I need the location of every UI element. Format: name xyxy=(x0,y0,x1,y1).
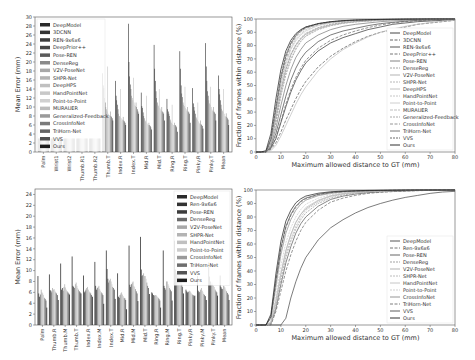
bar xyxy=(160,301,161,325)
legend-label: Ours xyxy=(53,143,65,149)
y-tick-label: 2 xyxy=(29,311,32,317)
bar xyxy=(200,290,201,325)
bar xyxy=(138,112,139,153)
bar xyxy=(73,287,74,325)
bar xyxy=(135,289,136,325)
y-tick-label: 70 xyxy=(247,56,253,62)
bar xyxy=(137,109,138,152)
bar xyxy=(98,287,99,325)
bar xyxy=(103,295,104,325)
bar xyxy=(203,294,204,325)
legend-label: DeepModel xyxy=(190,194,218,201)
bar xyxy=(38,276,39,325)
x-tick-label: Thumb.R xyxy=(51,328,57,352)
bar xyxy=(65,287,66,325)
bar xyxy=(111,116,112,152)
bar xyxy=(52,288,53,325)
x-tick-label: Mid.M xyxy=(130,329,136,344)
y-tick-label: 20 xyxy=(247,122,253,128)
y-tick-label: 40 xyxy=(247,268,253,274)
bar xyxy=(155,81,156,152)
bar xyxy=(207,91,208,152)
y-tick-label: 50 xyxy=(247,82,253,88)
x-tick-label: Ring.T xyxy=(176,328,183,345)
bar xyxy=(96,290,97,325)
bar xyxy=(169,114,170,152)
bar xyxy=(64,284,65,325)
bar xyxy=(143,116,144,152)
y-tick-label: 80 xyxy=(247,214,253,220)
bar xyxy=(45,299,46,325)
bar xyxy=(210,87,211,152)
y-axis-label: Fraction of frames within distance (%) xyxy=(235,196,243,320)
bar xyxy=(206,300,207,325)
y-tick-label: 0 xyxy=(29,149,32,155)
y-tick-label: 6 xyxy=(29,122,32,128)
legend-swatch xyxy=(40,99,50,103)
bar xyxy=(192,88,193,152)
y-tick-label: 20 xyxy=(26,59,32,65)
bar xyxy=(198,291,199,325)
legend-label: Pose-REN xyxy=(190,209,214,215)
x-tick-label: Ring.T xyxy=(182,155,189,172)
bar xyxy=(134,287,135,325)
bar xyxy=(201,125,202,152)
bar xyxy=(91,295,92,325)
y-tick-label: 16 xyxy=(26,235,32,241)
x-tick-label: Ring.R xyxy=(169,155,176,172)
bar xyxy=(229,300,230,325)
bar xyxy=(207,81,208,152)
bar xyxy=(167,109,168,152)
bar xyxy=(117,105,118,152)
y-tick-label: 30 xyxy=(247,281,253,287)
bar xyxy=(221,289,222,325)
bar xyxy=(89,291,90,325)
bar xyxy=(90,293,91,325)
bar xyxy=(215,290,216,325)
bar xyxy=(41,290,42,325)
bar xyxy=(111,117,112,152)
bar xyxy=(191,293,192,325)
bar xyxy=(116,100,117,152)
bar xyxy=(132,283,133,325)
bar xyxy=(120,89,121,152)
bar xyxy=(163,114,164,152)
bar xyxy=(189,112,190,152)
x-tick-label: Index.M xyxy=(96,329,102,349)
bar xyxy=(79,291,80,325)
bar xyxy=(63,291,64,325)
x-tick-label: Ring.R xyxy=(153,328,160,345)
legend-label: Generalized-Feedback xyxy=(53,113,109,119)
bar xyxy=(145,121,146,153)
bar xyxy=(220,100,221,152)
legend-label: DeepModel xyxy=(403,30,431,37)
bar xyxy=(223,89,224,152)
bar xyxy=(118,114,119,152)
y-tick-label: 30 xyxy=(247,109,253,115)
bar xyxy=(129,62,130,152)
y-tick-label: 8 xyxy=(29,278,32,284)
bar xyxy=(81,293,82,325)
bar xyxy=(154,45,155,152)
bar xyxy=(168,112,169,153)
bar xyxy=(115,299,116,325)
bar xyxy=(133,281,134,325)
bar xyxy=(217,296,218,325)
bar xyxy=(125,123,126,152)
bar xyxy=(121,118,122,152)
bar xyxy=(120,117,121,152)
bar xyxy=(148,125,149,152)
y-axis-label: Mean Error (mm) xyxy=(14,229,22,284)
bar xyxy=(197,120,198,152)
bar xyxy=(51,291,52,325)
x-tick-label: 10 xyxy=(278,327,284,333)
legend-label: MURAUER xyxy=(53,105,78,111)
x-tick-label: Index.T xyxy=(108,328,114,347)
bar xyxy=(174,123,175,152)
legend-swatch xyxy=(177,271,187,275)
bar xyxy=(195,114,196,152)
legend-label: Ren-9x6x6 xyxy=(190,201,217,207)
bar xyxy=(186,109,187,152)
bar xyxy=(103,304,104,325)
legend-label: TriHorn-Net xyxy=(189,262,218,268)
